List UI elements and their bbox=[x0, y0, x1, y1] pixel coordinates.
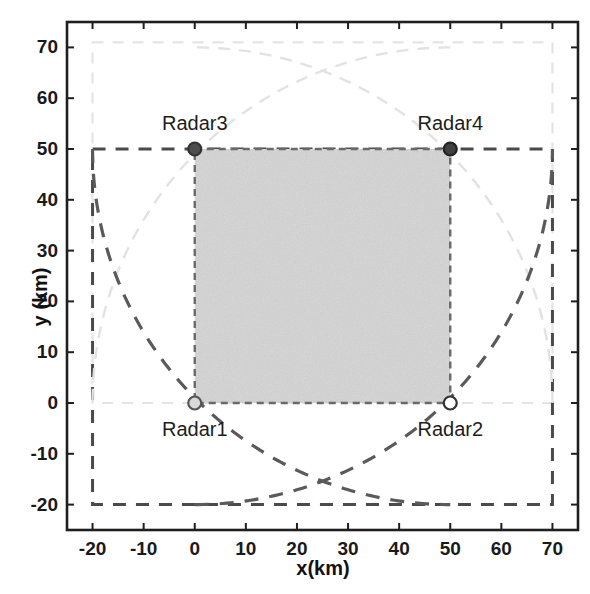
x-tick-label-7: 50 bbox=[440, 538, 461, 560]
radar-label-2: Radar2 bbox=[417, 418, 483, 441]
radar-marker-1 bbox=[188, 397, 201, 410]
radar-label-4: Radar4 bbox=[417, 112, 483, 135]
y-axis-title: y (km) bbox=[29, 268, 52, 327]
y-tick-label-1: -10 bbox=[14, 443, 58, 465]
x-tick-label-8: 60 bbox=[491, 538, 512, 560]
x-tick-label-2: 0 bbox=[189, 538, 200, 560]
y-tick-label-2: 0 bbox=[14, 392, 58, 414]
x-tick-label-3: 10 bbox=[235, 538, 256, 560]
x-tick-label-1: -10 bbox=[130, 538, 157, 560]
x-axis-title: x(km) bbox=[296, 557, 349, 580]
radar-coverage-figure: Radar1Radar2Radar3Radar4-20-100102030405… bbox=[0, 0, 590, 594]
radar-label-3: Radar3 bbox=[162, 112, 228, 135]
x-tick-label-0: -20 bbox=[79, 538, 106, 560]
y-tick-label-3: 10 bbox=[14, 341, 58, 363]
x-tick-label-9: 70 bbox=[542, 538, 563, 560]
y-tick-label-9: 70 bbox=[14, 36, 58, 58]
radar-label-1: Radar1 bbox=[162, 418, 228, 441]
radar-marker-2 bbox=[444, 397, 457, 410]
common-coverage-region bbox=[195, 149, 451, 403]
plot-canvas bbox=[0, 0, 590, 594]
y-tick-label-8: 60 bbox=[14, 87, 58, 109]
y-tick-label-6: 40 bbox=[14, 189, 58, 211]
x-tick-label-6: 40 bbox=[389, 538, 410, 560]
y-tick-label-7: 50 bbox=[14, 138, 58, 160]
y-tick-label-0: -20 bbox=[14, 494, 58, 516]
radar-marker-4 bbox=[444, 143, 457, 156]
y-tick-label-5: 30 bbox=[14, 240, 58, 262]
radar-marker-3 bbox=[188, 143, 201, 156]
